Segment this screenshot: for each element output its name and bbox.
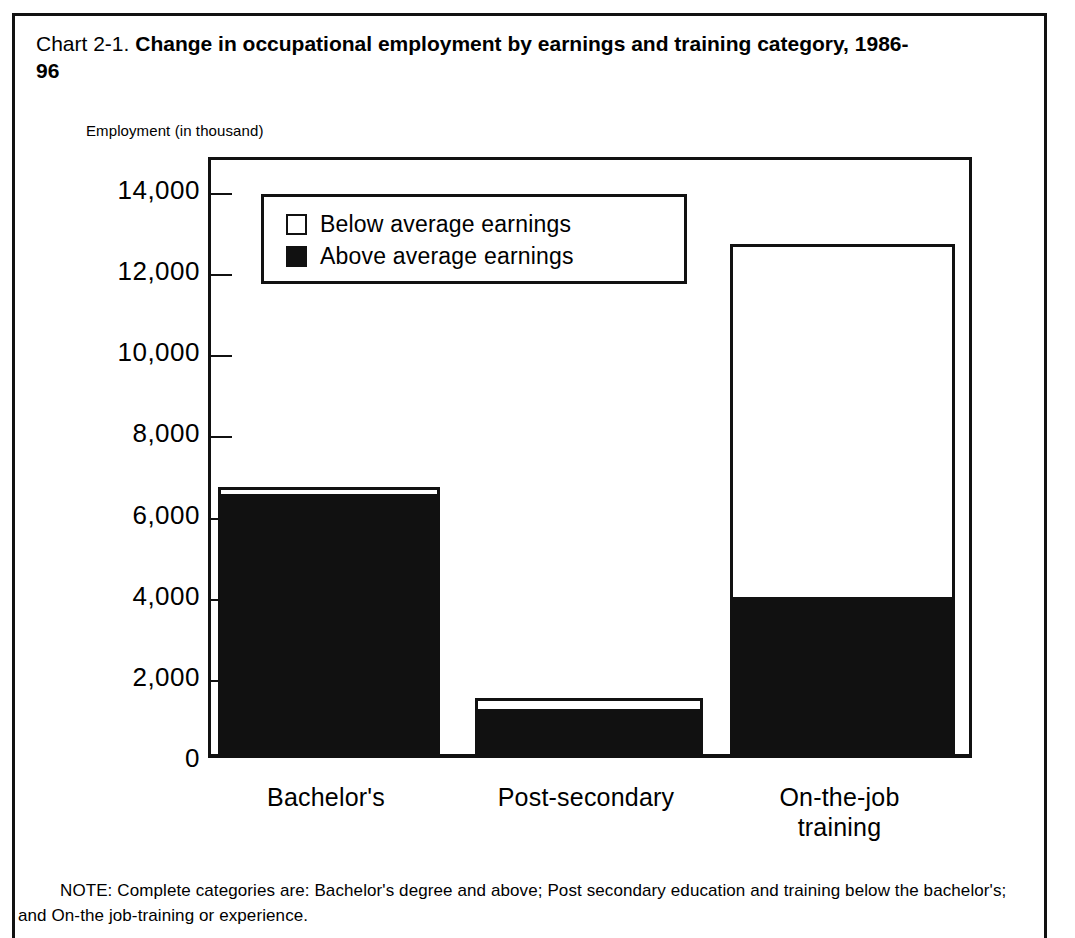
black-square-icon: [286, 246, 307, 267]
y-axis-tick-label: 14,000: [10, 175, 200, 206]
legend-item-above: Above average earnings: [286, 240, 684, 272]
y-axis-tick-labels: 02,0004,0006,0008,00010,00012,00014,000: [0, 0, 200, 933]
y-axis-tick-label: 4,000: [10, 580, 200, 611]
bar-segment-above-average: [730, 597, 955, 758]
x-axis-label-3: On-the-jobtraining: [687, 782, 992, 842]
white-square-icon: [286, 214, 307, 235]
bar-bachelor-s: [218, 487, 440, 758]
y-axis-tick-label: 2,000: [10, 661, 200, 692]
x-axis-label-line: On-the-job: [687, 782, 992, 812]
legend: Below average earnings Above average ear…: [261, 194, 687, 284]
x-axis-label-line: training: [687, 812, 992, 842]
y-axis-tick: [210, 274, 232, 276]
legend-label-below: Below average earnings: [320, 208, 571, 240]
y-axis-tick: [210, 193, 232, 195]
plot-area: Below average earnings Above average ear…: [208, 157, 972, 758]
y-axis-tick-label: 0: [10, 743, 200, 774]
legend-item-below: Below average earnings: [286, 208, 684, 240]
bar-on-the-job-training: [730, 244, 955, 758]
chart-note: NOTE: Complete categories are: Bachelor'…: [18, 878, 1028, 928]
bar-segment-above-average: [475, 709, 703, 758]
chart-note-text: NOTE: Complete categories are: Bachelor'…: [18, 881, 1006, 925]
x-axis-category-labels: Bachelor'sPost-secondaryOn-the-jobtraini…: [208, 782, 972, 852]
y-axis-tick-label: 6,000: [10, 499, 200, 530]
y-axis-tick: [210, 355, 232, 357]
y-axis-tick-label: 8,000: [10, 418, 200, 449]
bar-post-secondary: [475, 698, 703, 758]
y-axis-tick-label: 10,000: [10, 337, 200, 368]
bar-segment-above-average: [218, 494, 440, 758]
y-axis-tick: [210, 436, 232, 438]
legend-label-above: Above average earnings: [320, 240, 574, 272]
y-axis-tick-label: 12,000: [10, 256, 200, 287]
